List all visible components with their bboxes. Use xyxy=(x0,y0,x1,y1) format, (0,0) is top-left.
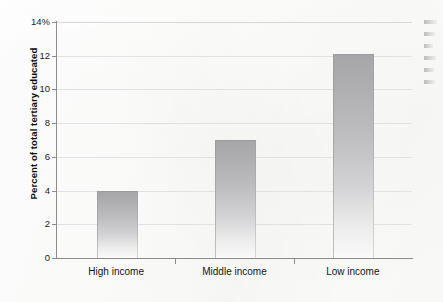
bar-top-edge xyxy=(98,191,137,192)
y-tick-label: 0 xyxy=(14,252,50,263)
y-tick-label: 6 xyxy=(14,151,50,162)
bar xyxy=(97,191,138,258)
margin-text-fragment xyxy=(424,20,437,24)
y-tick-mark xyxy=(52,258,57,259)
gridline xyxy=(57,22,412,23)
y-tick-mark xyxy=(52,191,57,192)
x-axis-line xyxy=(56,258,413,259)
x-tick-mark xyxy=(294,259,295,264)
y-tick-label: 10 xyxy=(14,83,50,94)
margin-text-fragment xyxy=(424,56,436,60)
margin-text-fragment xyxy=(424,80,435,84)
y-tick-label: 8 xyxy=(14,117,50,128)
bar-chart: Percent of total tertiary educated 14%12… xyxy=(0,0,443,302)
x-category-label: Low income xyxy=(294,266,412,277)
bar xyxy=(215,140,256,258)
x-category-label: Middle income xyxy=(175,266,293,277)
y-tick-label: 12 xyxy=(14,50,50,61)
y-tick-mark xyxy=(52,56,57,57)
y-tick-mark xyxy=(52,224,57,225)
margin-text-fragment xyxy=(424,68,434,72)
y-tick-label: 4 xyxy=(14,185,50,196)
x-tick-mark xyxy=(175,259,176,264)
plot-area xyxy=(57,22,412,258)
y-tick-mark xyxy=(52,22,57,23)
y-tick-mark xyxy=(52,157,57,158)
bar-top-edge xyxy=(334,54,373,55)
y-tick-mark xyxy=(52,123,57,124)
margin-text-fragments xyxy=(424,18,443,98)
y-tick-mark xyxy=(52,89,57,90)
bar xyxy=(333,54,374,258)
margin-text-fragment xyxy=(424,32,435,36)
y-tick-label: 2 xyxy=(14,218,50,229)
margin-text-fragment xyxy=(424,44,433,48)
x-category-label: High income xyxy=(57,266,175,277)
y-tick-label: 14% xyxy=(14,16,50,27)
bar-top-edge xyxy=(216,140,255,141)
